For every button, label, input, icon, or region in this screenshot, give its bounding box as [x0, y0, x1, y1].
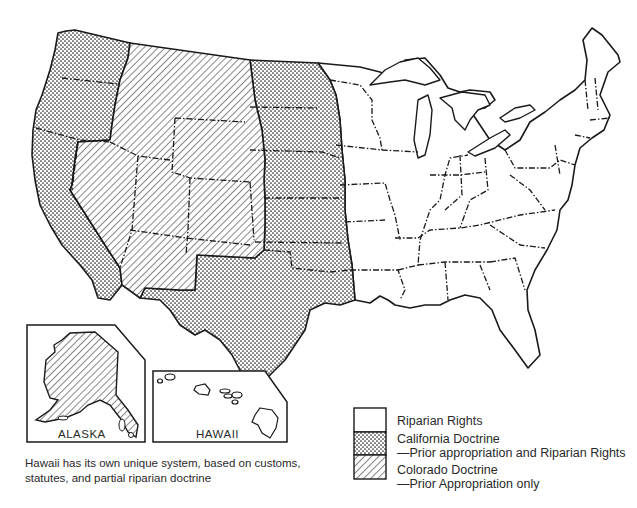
legend-swatch-california: [354, 432, 386, 455]
region-riparian-east: [318, 28, 620, 368]
legend-label-riparian: Riparian Rights: [397, 414, 482, 429]
legend-swatch-riparian: [354, 408, 386, 432]
legend-swatch-colorado: [354, 455, 386, 479]
hawaii-caption: Hawaii has its own unique system, based …: [25, 456, 325, 486]
alaska-label: ALASKA: [58, 428, 106, 440]
alaska-inset: [27, 325, 145, 442]
alaska-island: [129, 433, 134, 438]
legend: [354, 408, 386, 479]
alaska-island: [119, 419, 125, 431]
legend-sublabel-california: —Prior appropriation and Riparian Rights: [397, 446, 626, 461]
lake-ontario: [500, 105, 535, 122]
legend-label-colorado: Colorado Doctrine: [397, 463, 498, 478]
alaska-island: [58, 416, 68, 420]
legend-label-california: California Doctrine: [397, 432, 500, 447]
hawaii-label: HAWAII: [196, 428, 239, 440]
legend-sublabel-colorado: —Prior Appropriation only: [397, 477, 539, 492]
